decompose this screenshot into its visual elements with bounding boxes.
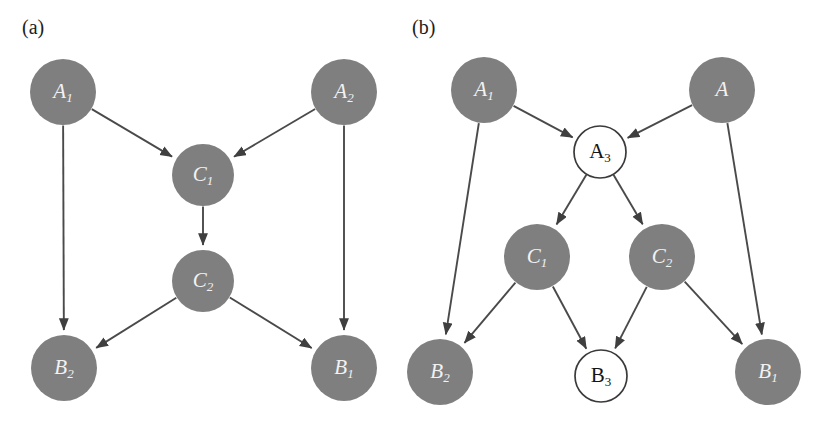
node-a_C1[interactable]: C1: [172, 144, 234, 206]
node-label-subscript-b_C1: 1: [541, 255, 548, 270]
node-label-subscript-b_A1: 1: [487, 88, 494, 103]
node-label-subscript-a_A1: 1: [66, 90, 73, 105]
edge-b_C1-to-b_B2: [465, 283, 516, 343]
node-a_A1[interactable]: A1: [30, 59, 96, 125]
edge-b_C2-to-b_B3: [615, 287, 647, 349]
node-label-subscript-b_A3: 3: [604, 150, 611, 165]
edge-a_C2-to-a_B2: [96, 298, 176, 348]
node-label-subscript-a_C1: 1: [207, 173, 214, 188]
edge-a_A1-to-a_C1: [92, 109, 172, 157]
node-b_A[interactable]: A: [689, 57, 755, 123]
node-label-subscript-b_B3: 3: [605, 374, 612, 389]
node-label-subscript-a_B2: 2: [67, 366, 74, 381]
panel-label-b: (b): [412, 16, 435, 39]
edge-b_A1-to-b_A3: [514, 106, 573, 138]
node-b_A1[interactable]: A1: [451, 57, 517, 123]
edge-b_A1-to-b_B2: [446, 123, 479, 334]
dag-figure-svg: A1A2C1C2B2B1A1AA3C1C2B2B3B1 (a)(b): [0, 0, 832, 422]
node-b_C2[interactable]: C2: [629, 224, 695, 290]
node-b_C1[interactable]: C1: [504, 224, 570, 290]
node-label-subscript-a_B1: 1: [347, 366, 354, 381]
edge-b_C1-to-b_B3: [553, 287, 586, 349]
edge-b_A-to-b_B1: [727, 123, 761, 334]
figure-canvas: A1A2C1C2B2B1A1AA3C1C2B2B3B1 (a)(b): [0, 0, 832, 422]
node-label-subscript-a_C2: 2: [207, 279, 214, 294]
node-b_A3[interactable]: A3: [574, 126, 626, 178]
node-b_B3[interactable]: B3: [575, 350, 627, 402]
node-a_A2[interactable]: A2: [311, 59, 377, 125]
edge-a_A2-to-a_C1: [234, 109, 315, 157]
edge-a_A1-to-a_B2: [63, 125, 64, 330]
node-a_B2[interactable]: B2: [31, 335, 97, 401]
node-b_B2[interactable]: B2: [407, 339, 473, 405]
panel-label-a: (a): [22, 16, 44, 39]
edge-b_A3-to-b_C2: [613, 175, 642, 224]
edge-b_A-to-b_A3: [628, 105, 692, 138]
node-b_B1[interactable]: B1: [735, 339, 801, 405]
edge-b_C2-to-b_B1: [685, 282, 743, 344]
edge-b_A3-to-b_C1: [557, 175, 587, 225]
node-label-subscript-a_A2: 2: [347, 90, 354, 105]
panel-labels-layer: (a)(b): [22, 16, 435, 39]
node-a_C2[interactable]: C2: [172, 250, 234, 312]
node-label-subscript-b_B2: 2: [443, 370, 450, 385]
node-label-subscript-b_C2: 2: [666, 255, 673, 270]
node-label-subscript-b_B1: 1: [771, 370, 778, 385]
edge-a_C2-to-a_B1: [230, 298, 312, 349]
node-a_B1[interactable]: B1: [311, 335, 377, 401]
node-label-b_A: A: [714, 77, 729, 101]
